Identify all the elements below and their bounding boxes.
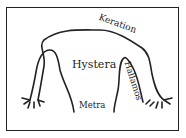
label-metra: Metra (79, 100, 105, 110)
label-hystera: Hystera (72, 58, 116, 71)
